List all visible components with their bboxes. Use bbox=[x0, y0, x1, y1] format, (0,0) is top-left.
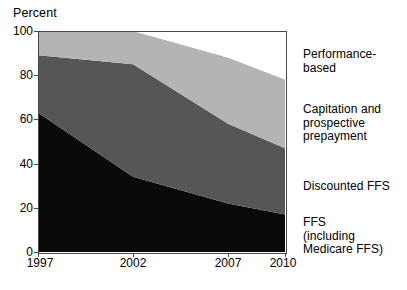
series-label-capitation: Capitation and prospective prepayment bbox=[303, 103, 381, 144]
x-tick-label-2002: 2002 bbox=[120, 257, 147, 269]
plot-frame bbox=[38, 31, 287, 254]
y-tick-label-100: 100 bbox=[3, 25, 33, 37]
x-tick-label-2007: 2007 bbox=[215, 257, 242, 269]
x-tick-label-1997: 1997 bbox=[27, 257, 54, 269]
series-label-ffs: FFS (including Medicare FFS) bbox=[303, 216, 383, 257]
series-label-discounted-ffs: Discounted FFS bbox=[303, 180, 390, 194]
y-tick-label-40: 40 bbox=[3, 158, 33, 170]
y-axis-tick-labels: 100 80 60 40 20 0 bbox=[0, 0, 33, 290]
chart-figure: Percent 100 80 60 40 20 0 1997 2002 2007… bbox=[0, 0, 407, 290]
x-tick-label-2010: 2010 bbox=[270, 257, 297, 269]
y-tick-label-60: 60 bbox=[3, 113, 33, 125]
y-tick-label-20: 20 bbox=[3, 202, 33, 214]
series-label-performance-based: Performance-based bbox=[303, 48, 407, 75]
y-tick-label-80: 80 bbox=[3, 69, 33, 81]
